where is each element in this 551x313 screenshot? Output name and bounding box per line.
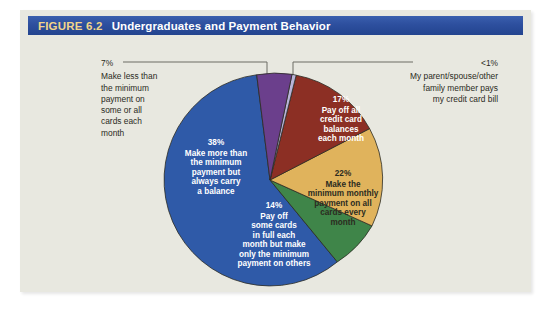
callout-left-pct: 7% xyxy=(101,58,205,69)
figure-title-bar: FIGURE 6.2 Undergraduates and Payment Be… xyxy=(28,16,523,35)
callout-right: <1% My parent/spouse/other family member… xyxy=(350,58,498,105)
callout-left: 7% Make less than the minimum payment on… xyxy=(101,58,205,139)
pie-chart: 38% Make more than the minimum payment b… xyxy=(20,35,531,292)
figure-number: FIGURE 6.2 xyxy=(38,20,103,32)
figure-panel: FIGURE 6.2 Undergraduates and Payment Be… xyxy=(20,10,531,292)
callout-right-pct: <1% xyxy=(350,58,498,69)
figure-title: Undergraduates and Payment Behavior xyxy=(112,20,331,32)
